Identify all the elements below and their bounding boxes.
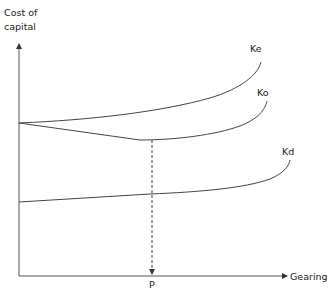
ko-label: Ko [257, 87, 269, 98]
kd-curve [19, 160, 290, 202]
cost-of-capital-diagram: Ke Ko Kd P Gearing [0, 0, 329, 294]
p-label: P [149, 279, 155, 290]
ke-label: Ke [250, 43, 262, 54]
ke-curve [19, 62, 261, 123]
kd-label: Kd [282, 146, 294, 157]
x-axis-label: Gearing [290, 271, 328, 282]
